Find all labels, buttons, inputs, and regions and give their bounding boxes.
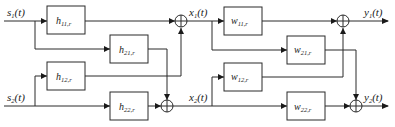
arrowheads — [41, 18, 389, 109]
arrow-right-icon — [218, 74, 224, 80]
block-h11: h11,r — [47, 6, 85, 34]
arrow-right-icon — [382, 103, 389, 109]
sum-junction-y2 — [350, 100, 362, 112]
arrow-up-icon — [340, 28, 346, 34]
block-w11: w11,r — [224, 7, 262, 35]
mixing-demixing-diagram: h11,r h21,r h12,r h22,r w11,r w21,r w12,… — [0, 0, 395, 127]
sum-junction-y1 — [337, 15, 349, 27]
block-h12: h12,r — [47, 62, 85, 90]
block-h22: h22,r — [110, 92, 148, 120]
block-w22: w22,r — [287, 92, 325, 120]
arrow-right-icon — [218, 18, 224, 24]
arrow-right-icon — [169, 18, 175, 24]
label-y2: y2(t) — [363, 91, 383, 104]
block-h21: h21,r — [110, 35, 148, 63]
arrow-right-icon — [344, 103, 350, 109]
arrow-right-icon — [155, 103, 161, 109]
block-w12: w12,r — [224, 63, 262, 91]
arrow-up-icon — [178, 28, 184, 34]
label-x2: x2(t) — [188, 91, 208, 104]
arrow-right-icon — [281, 103, 287, 109]
block-w21: w21,r — [287, 36, 325, 64]
arrow-right-icon — [331, 18, 337, 24]
label-s1: s1(t) — [7, 6, 25, 19]
label-s2: s2(t) — [7, 91, 25, 104]
sum-junction-x1 — [175, 15, 187, 27]
arrow-down-icon — [353, 94, 359, 100]
arrow-right-icon — [104, 103, 110, 109]
label-y1: y1(t) — [363, 6, 383, 19]
mixing-wires — [4, 21, 181, 106]
arrow-right-icon — [104, 46, 110, 52]
arrow-down-icon — [164, 94, 170, 100]
arrow-right-icon — [41, 73, 47, 79]
arrow-right-icon — [382, 18, 389, 24]
arrow-right-icon — [281, 47, 287, 53]
sum-junction-x2 — [161, 100, 173, 112]
arrow-right-icon — [41, 18, 47, 24]
label-x1: x1(t) — [188, 6, 208, 19]
